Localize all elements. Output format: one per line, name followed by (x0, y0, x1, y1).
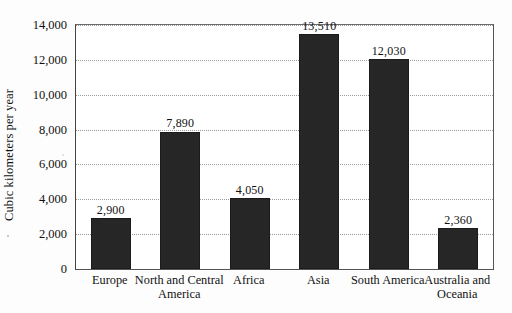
bar[interactable] (299, 34, 339, 269)
y-tick-label: 10,000 (33, 87, 67, 102)
gridline (76, 60, 493, 61)
gridline (76, 130, 493, 131)
y-tick-label: 4,000 (39, 192, 67, 207)
bar-value-label: 13,510 (302, 19, 336, 34)
figure-page: Cubic kilometers per year 02,0004,0006,0… (0, 0, 512, 313)
x-tick-label-line1: Africa (233, 273, 264, 287)
x-tick-label: Asia (307, 274, 330, 288)
x-tick-label-line2: Oceania (424, 288, 490, 302)
x-tick-label-line1: South America (351, 273, 424, 287)
gridline (76, 25, 493, 26)
bar-value-label: 4,050 (236, 183, 264, 198)
x-axis-tick-labels: EuropeNorth and CentralAmericaAfricaAsia… (75, 274, 494, 308)
x-tick-label-line2: America (135, 288, 224, 302)
y-tick-label: 12,000 (33, 52, 67, 67)
x-tick-label: Europe (92, 274, 128, 288)
y-tick-label: 6,000 (39, 157, 67, 172)
bar[interactable] (91, 218, 131, 269)
x-tick-label: Australia andOceania (424, 274, 490, 301)
bar[interactable] (438, 228, 478, 269)
y-tick-label: 8,000 (39, 122, 67, 137)
scan-speck (62, 154, 64, 156)
y-tick-label: 2,000 (39, 227, 67, 242)
bar[interactable] (230, 198, 270, 269)
scan-speck (7, 235, 9, 237)
x-tick-label-line1: Australia and (424, 273, 490, 287)
bar-value-label: 2,360 (444, 213, 472, 228)
x-tick-label-line1: North and Central (135, 273, 224, 287)
y-tick-label: 0 (61, 262, 67, 277)
y-axis-tick-labels: 02,0004,0006,0008,00010,00012,00014,000 (0, 24, 71, 270)
gridline (76, 234, 493, 235)
bar[interactable] (369, 59, 409, 269)
bar[interactable] (160, 132, 200, 270)
x-tick-label-line1: Europe (92, 273, 128, 287)
bar-value-label: 2,900 (97, 203, 125, 218)
plot-area: 2,9007,8904,05013,51012,0302,360 (75, 24, 494, 270)
gridline (76, 199, 493, 200)
gridline (76, 95, 493, 96)
gridline (76, 164, 493, 165)
bar-value-label: 7,890 (166, 116, 194, 131)
bar-value-label: 12,030 (372, 44, 406, 59)
y-tick-label: 14,000 (33, 18, 67, 33)
x-tick-label: North and CentralAmerica (135, 274, 224, 301)
x-tick-label-line1: Asia (307, 273, 330, 287)
x-tick-label: Africa (233, 274, 264, 288)
x-tick-label: South America (351, 274, 424, 288)
